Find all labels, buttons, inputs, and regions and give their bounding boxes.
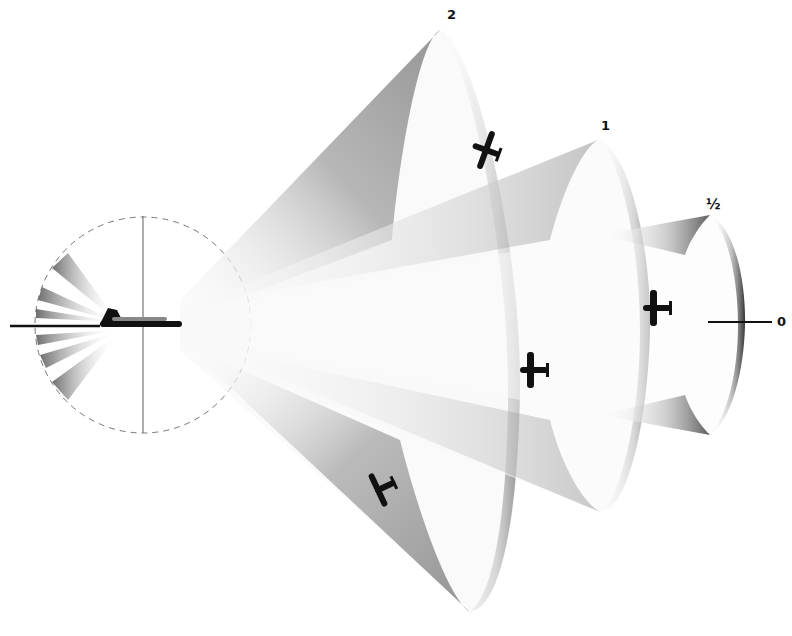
label-axis-zero: 0 bbox=[777, 315, 786, 328]
attack-cone-diagram bbox=[0, 0, 792, 636]
label-cone-half: ½ bbox=[706, 197, 721, 211]
bomber-silhouette bbox=[100, 308, 182, 327]
label-cone-2: 2 bbox=[447, 8, 456, 21]
label-cone-1: 1 bbox=[601, 119, 610, 132]
